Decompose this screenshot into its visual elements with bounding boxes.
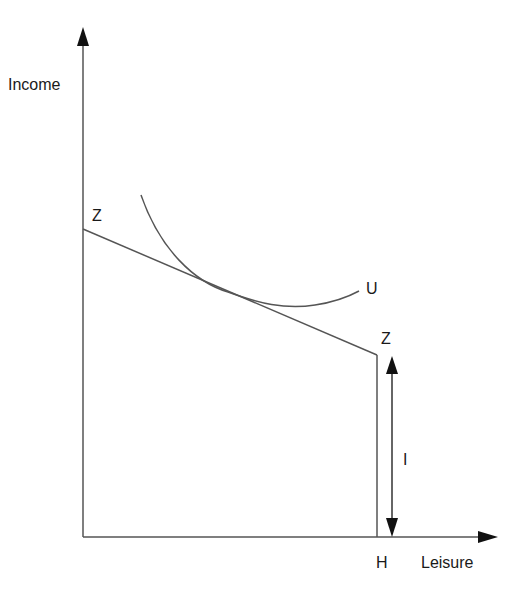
x-axis-label: Leisure (421, 555, 473, 571)
arrow-down-icon (386, 518, 398, 537)
endowment-label: H (376, 555, 388, 571)
unearned-income-label: I (403, 452, 407, 468)
indifference-curve-label: U (366, 281, 378, 297)
diagram-canvas (0, 0, 529, 592)
budget-right-label: Z (381, 331, 391, 347)
arrow-up-icon (386, 356, 398, 374)
y-axis-label: Income (8, 77, 60, 93)
budget-left-label: Z (92, 208, 102, 224)
indifference-curve (141, 195, 359, 307)
y-axis-arrow-icon (77, 27, 89, 46)
x-axis-arrow-icon (478, 531, 498, 543)
